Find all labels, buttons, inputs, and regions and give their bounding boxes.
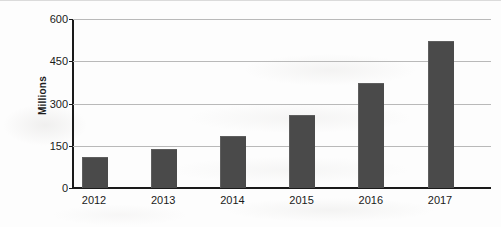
x-tick-label: 2016 xyxy=(359,194,383,206)
x-tick-label: 2017 xyxy=(428,194,452,206)
bar-2017 xyxy=(428,41,454,188)
y-tick-label: 300 xyxy=(34,98,68,110)
bar-2016 xyxy=(358,83,384,188)
bar-chart-figure: Millions 0150300450600 20122013201420152… xyxy=(0,0,501,227)
y-tick-label: 600 xyxy=(34,13,68,25)
x-tick-label: 2013 xyxy=(151,194,175,206)
bar-2014 xyxy=(220,136,246,188)
x-tick-label: 2012 xyxy=(82,194,106,206)
plot-area xyxy=(73,19,491,188)
y-tick-mark xyxy=(69,61,73,62)
x-tick-label: 2014 xyxy=(220,194,244,206)
y-axis-tick-labels: 0150300450600 xyxy=(28,19,68,188)
scan-edge-line xyxy=(0,0,501,1)
y-tick-mark xyxy=(69,146,73,147)
y-tick-mark xyxy=(69,19,73,20)
gridline xyxy=(73,19,491,20)
x-tick-label: 2015 xyxy=(289,194,313,206)
bar-2013 xyxy=(151,149,177,188)
bar-2015 xyxy=(289,115,315,188)
y-tick-mark xyxy=(69,104,73,105)
y-tick-mark xyxy=(69,188,73,189)
y-tick-label: 0 xyxy=(34,182,68,194)
y-tick-label: 450 xyxy=(34,55,68,67)
x-axis-tick-labels: 201220132014201520162017 xyxy=(73,194,491,214)
bar-2012 xyxy=(82,157,108,188)
y-tick-label: 150 xyxy=(34,140,68,152)
